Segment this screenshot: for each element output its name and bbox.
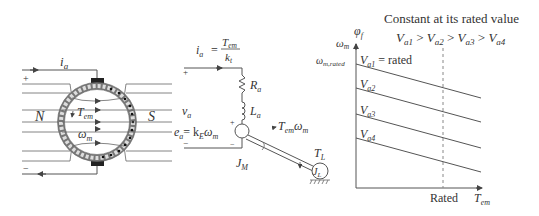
dc-motor-diagram: ia + − N S: [0, 0, 539, 216]
terminal-voltage-label: va: [182, 104, 191, 120]
north-pole-label: N: [34, 109, 45, 124]
circuit-minus: −: [183, 138, 188, 148]
curve-label-va2: Va2: [360, 77, 375, 93]
south-pole-label: S: [148, 109, 155, 124]
circuit-plus: +: [183, 67, 188, 77]
current-equation-lhs: ia: [196, 43, 203, 59]
motor-inertia-label: JM: [236, 156, 249, 172]
y-axis-label: ωm: [336, 37, 350, 51]
shaft-torque-arc-icon: [262, 142, 264, 150]
diagram-canvas: ia + − N S: [0, 0, 539, 216]
chart-subtitle: Va1 > Va2 > Va3 > Va4: [396, 30, 506, 47]
flux-axis-label: φf: [354, 24, 365, 40]
resistor-label: Ra: [249, 78, 261, 94]
inductor-icon: [242, 102, 245, 120]
motor-cross-section: ia + − N S: [22, 54, 172, 174]
ground-hatch-icon: [310, 180, 330, 184]
rotor-speed-label: ωm: [78, 127, 92, 143]
motor-shaft: [246, 135, 315, 171]
inductor-label: La: [249, 104, 261, 120]
plus-sign: +: [23, 73, 29, 84]
back-emf-equation: ea= kEωm: [174, 125, 218, 141]
x-tick-rated: Rated: [430, 191, 458, 205]
curve-label-va4: Va4: [360, 127, 375, 143]
y-tick-rated-speed: ωm,rated: [316, 55, 345, 68]
x-axis-label: Tem: [474, 191, 490, 207]
load-torque-label: TL: [314, 146, 326, 162]
rotation-arrow-icon: [72, 111, 73, 117]
speed-torque-chart: Constant at its rated value Va1 > Va2 > …: [316, 11, 519, 207]
armature-current-label: ia: [60, 54, 69, 71]
mechanical-power-label: Temωm: [278, 119, 309, 135]
minus-sign: −: [23, 163, 29, 174]
air-gap-flux-arrows: [62, 98, 134, 146]
emf-plus: +: [230, 118, 235, 127]
rotor-torque-label: Tem: [77, 105, 93, 121]
chart-title: Constant at its rated value: [384, 11, 519, 26]
current-equation-equals: =: [211, 43, 218, 57]
curve-label-va1: Va1 = rated: [360, 53, 412, 69]
resistor-icon: [239, 75, 245, 93]
curve-label-va3: Va3: [360, 103, 375, 119]
current-equation-denominator: kt: [225, 51, 233, 65]
motor-emf-source-icon: [235, 124, 249, 138]
equivalent-circuit: ia = Tem kt + Ra La va + − − ea= kEωm: [174, 36, 330, 184]
current-equation-numerator: Tem: [222, 36, 237, 50]
